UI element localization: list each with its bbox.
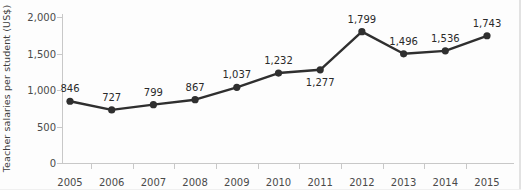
x-tick-label: 2007 <box>130 177 176 188</box>
data-point-marker <box>150 101 157 108</box>
data-point-marker <box>233 84 240 91</box>
y-axis-tick <box>57 17 62 18</box>
x-tick-label: 2008 <box>172 177 218 188</box>
x-axis-tick <box>383 164 384 169</box>
data-point-marker <box>400 50 407 57</box>
x-axis-tick <box>299 164 300 169</box>
x-tick-label: 2013 <box>381 177 427 188</box>
x-axis-tick <box>216 164 217 169</box>
data-point-label: 1,496 <box>389 36 418 47</box>
data-point-label: 1,799 <box>348 14 377 25</box>
x-tick-label: 2012 <box>339 177 385 188</box>
y-axis-tick <box>57 90 62 91</box>
x-tick-label: 2009 <box>214 177 260 188</box>
plot-area <box>0 0 521 190</box>
data-point-label: 1,536 <box>431 33 460 44</box>
data-point-label: 1,037 <box>222 69 251 80</box>
data-point-label: 1,277 <box>306 77 335 88</box>
data-point-marker <box>66 98 73 105</box>
data-point-marker <box>192 96 199 103</box>
x-tick-label: 2015 <box>464 177 510 188</box>
data-point-label: 867 <box>186 82 205 93</box>
data-point-marker <box>483 32 490 39</box>
y-axis-tick <box>57 54 62 55</box>
x-axis-tick <box>133 164 134 169</box>
x-axis-tick <box>174 164 175 169</box>
y-axis-tick <box>57 163 62 164</box>
data-point-marker <box>275 69 282 76</box>
x-tick-label: 2010 <box>256 177 302 188</box>
data-point-label: 846 <box>60 83 79 94</box>
data-point-label: 799 <box>144 87 163 98</box>
y-axis-tick <box>57 127 62 128</box>
x-axis-tick <box>91 164 92 169</box>
data-point-marker <box>358 28 365 35</box>
data-point-label: 1,232 <box>264 55 293 66</box>
x-tick-label: 2014 <box>422 177 468 188</box>
x-tick-label: 2006 <box>89 177 135 188</box>
data-point-marker <box>317 66 324 73</box>
x-axis-tick <box>258 164 259 169</box>
data-point-label: 727 <box>102 92 121 103</box>
line-chart: Teacher salaries per student (US$) 05001… <box>0 0 521 190</box>
x-axis-tick <box>466 164 467 169</box>
x-tick-label: 2011 <box>297 177 343 188</box>
data-point-marker <box>108 106 115 113</box>
series-markers <box>66 28 490 113</box>
x-axis-tick <box>424 164 425 169</box>
data-point-marker <box>442 47 449 54</box>
page-edge-bottom <box>0 189 521 190</box>
x-axis-tick <box>341 164 342 169</box>
data-point-label: 1,743 <box>473 18 502 29</box>
x-tick-label: 2005 <box>47 177 93 188</box>
